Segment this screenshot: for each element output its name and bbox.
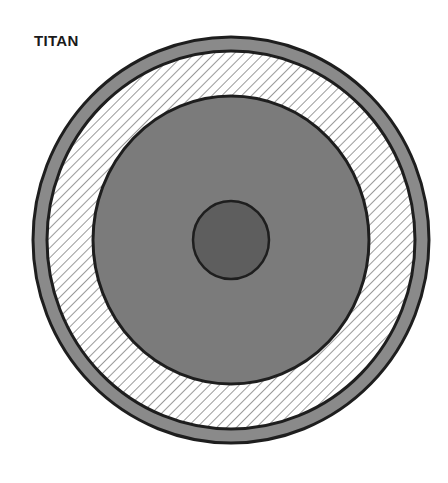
titan-interior-diagram <box>0 0 448 483</box>
core-layer <box>193 201 269 279</box>
